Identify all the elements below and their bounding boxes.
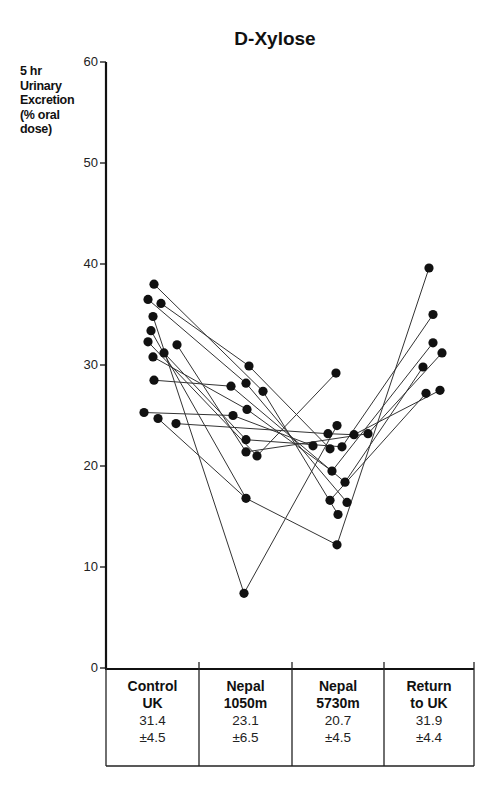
data-point	[363, 429, 372, 438]
category-label: Nepal	[292, 678, 384, 695]
data-point	[239, 589, 248, 598]
category-mean: 31.9	[384, 713, 474, 729]
data-point	[153, 414, 162, 423]
data-point	[421, 389, 430, 398]
data-point	[148, 352, 157, 361]
category-label: Control	[106, 678, 199, 695]
plot-area	[0, 0, 501, 793]
data-point	[143, 295, 152, 304]
data-point	[226, 382, 235, 391]
category-sd: ±4.5	[292, 730, 384, 746]
category-mean: 31.4	[106, 713, 199, 729]
category-label: Return	[384, 678, 474, 695]
data-point	[156, 299, 165, 308]
data-point	[340, 478, 349, 487]
data-point	[139, 408, 148, 417]
data-point	[428, 338, 437, 347]
data-point	[349, 430, 358, 439]
category-cell: Nepal5730m20.7±4.5	[292, 678, 384, 746]
data-point	[242, 405, 251, 414]
data-point	[159, 348, 168, 357]
category-label: to UK	[384, 695, 474, 712]
data-point	[333, 510, 342, 519]
data-point	[437, 348, 446, 357]
category-sd: ±4.4	[384, 730, 474, 746]
subject-line	[151, 268, 429, 545]
data-point	[332, 540, 341, 549]
data-point	[337, 442, 346, 451]
data-point	[143, 337, 152, 346]
data-point	[424, 263, 433, 272]
data-point	[325, 496, 334, 505]
data-point	[241, 435, 250, 444]
category-cell: ControlUK31.4±4.5	[106, 678, 199, 746]
category-sd: ±4.5	[106, 730, 199, 746]
data-point	[244, 361, 253, 370]
data-point	[241, 447, 250, 456]
data-point	[252, 451, 261, 460]
subject-line	[148, 299, 347, 502]
data-point	[241, 379, 250, 388]
data-point	[331, 369, 340, 378]
data-point	[327, 467, 336, 476]
category-label: Nepal	[199, 678, 292, 695]
category-mean: 20.7	[292, 713, 384, 729]
data-point	[172, 340, 181, 349]
category-mean: 23.1	[199, 713, 292, 729]
category-label: UK	[106, 695, 199, 712]
data-point	[308, 441, 317, 450]
data-point	[418, 362, 427, 371]
data-point	[332, 421, 341, 430]
data-point	[149, 376, 158, 385]
data-point	[342, 498, 351, 507]
data-point	[435, 386, 444, 395]
category-label: 5730m	[292, 695, 384, 712]
category-label: 1050m	[199, 695, 292, 712]
data-point	[241, 494, 250, 503]
data-point	[149, 280, 158, 289]
data-point	[258, 387, 267, 396]
category-sd: ±6.5	[199, 730, 292, 746]
data-point	[148, 312, 157, 321]
data-point	[146, 326, 155, 335]
category-cell: Nepal1050m23.1±6.5	[199, 678, 292, 746]
data-point	[228, 411, 237, 420]
category-cell: Returnto UK31.9±4.4	[384, 678, 474, 746]
data-point	[323, 429, 332, 438]
data-point	[325, 444, 334, 453]
data-point	[428, 310, 437, 319]
data-point	[171, 419, 180, 428]
